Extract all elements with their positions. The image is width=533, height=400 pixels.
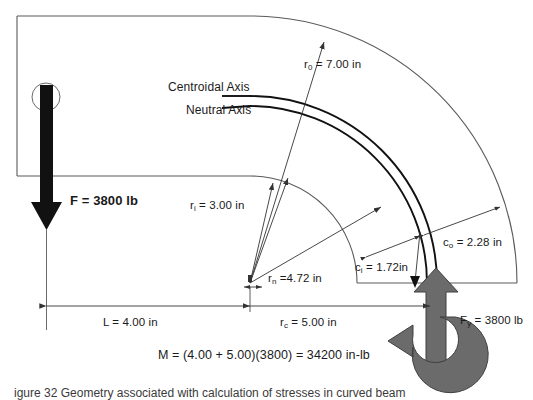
c-inner-value: = 1.72in — [363, 261, 408, 273]
applied-force-arrow — [31, 83, 62, 230]
centroidal-axis-label: Centroidal Axis — [168, 80, 250, 94]
c-outer-dimension-line — [424, 207, 500, 235]
r-neutral-value: =4.72 in — [277, 272, 322, 284]
centroidal-axis-arc — [250, 96, 437, 283]
end-face-indicator-arrow — [410, 276, 420, 288]
r-inner-label: ri = 3.00 in — [190, 199, 244, 211]
reaction-force-label: Fy = 3800 lb — [460, 314, 523, 326]
r-inner-value: = 3.00 in — [196, 199, 245, 211]
beam-inner-boundary — [17, 176, 357, 283]
neutral-axis-arc — [250, 106, 427, 283]
reaction-value: = 3800 lb — [471, 314, 523, 326]
beam-outline — [17, 16, 517, 283]
r-outer-label: r0 = 7.00 in — [304, 58, 361, 70]
c-outer-value: = 2.28 in — [453, 236, 502, 248]
r-outer-subscript: 0 — [308, 63, 313, 72]
r-inner-dimension-line — [250, 183, 273, 283]
applied-force-label: F = 3800 lb — [70, 193, 138, 208]
c-outer-symbol: c — [443, 236, 449, 248]
c-inner-dimension-line — [366, 236, 420, 257]
force-value: = 3800 lb — [78, 193, 138, 208]
c-inner-extension — [415, 232, 420, 282]
neutral-axis-label: Neutral Axis — [186, 103, 251, 117]
reaction-subscript: y — [467, 319, 471, 328]
beam-outer-boundary — [17, 16, 517, 283]
r-centroid-subscript: c — [284, 321, 288, 330]
c-outer-subscript: o — [449, 241, 454, 250]
force-symbol: F — [70, 193, 78, 208]
r-outer-value: = 7.00 in — [313, 58, 362, 70]
r-neutral-subscript: n — [272, 277, 277, 286]
r-centroid-label: rc = 5.00 in — [280, 316, 337, 328]
r-neutral-dimension-line — [250, 178, 288, 283]
figure-caption: igure 32 Geometry associated with calcul… — [14, 386, 406, 400]
r-neutral-label: rn =4.72 in — [268, 272, 322, 284]
r-centroid-value: = 5.00 in — [288, 316, 337, 328]
length-label: L = 4.00 in — [103, 316, 158, 328]
curved-beam-figure: Centroidal Axis Neutral Axis r0 = 7.00 i… — [0, 0, 533, 400]
r-inner-subscript: i — [194, 204, 196, 213]
c-inner-symbol: c — [355, 261, 361, 273]
moment-equation-label: M = (4.00 + 5.00)(3800) = 34200 in-lb — [158, 348, 370, 362]
c-inner-subscript: i — [361, 266, 363, 275]
c-outer-label: co = 2.28 in — [443, 236, 502, 248]
c-inner-label: ci = 1.72in — [355, 261, 408, 273]
